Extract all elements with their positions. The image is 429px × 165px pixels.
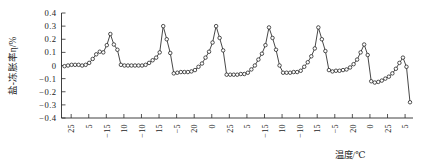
x-tick-label: 10 [120,124,129,133]
x-tick-label: 15 [155,124,164,133]
data-point-marker [348,66,352,70]
data-point-marker [123,64,127,68]
data-point-marker [94,53,98,57]
data-point-marker [341,68,345,72]
data-point-marker [250,68,254,72]
data-point-marker [253,64,257,68]
data-point-marker [366,53,370,57]
x-tick-label: 25 [226,124,235,133]
x-tick-label: 10 [278,124,287,133]
data-point-marker [77,63,81,67]
data-point-marker [151,59,155,63]
data-point-marker [302,65,306,69]
x-tick-label: −5 [173,124,182,133]
data-point-marker [338,69,342,73]
data-point-marker [401,56,405,60]
data-point-marker [112,43,116,47]
data-point-marker [80,64,84,68]
x-tick-label: 0 [366,124,375,128]
data-point-marker [352,62,356,66]
data-point-marker [137,64,141,68]
x-axis-title: 温度/℃ [335,149,366,160]
data-point-marker [193,68,197,72]
data-point-marker [232,73,236,77]
y-tick-label: 0 [52,61,57,71]
x-tick-label: −15 [103,124,112,138]
data-point-marker [306,60,310,64]
x-tick-label: 0 [208,124,217,128]
data-point-marker [197,65,201,69]
data-point-marker [271,36,275,40]
data-point-marker [144,63,148,67]
data-point-marker [165,38,169,42]
y-tick-label: −0.3 [39,100,56,110]
data-point-marker [369,80,373,84]
data-point-marker [169,51,173,55]
x-tick-label: 5 [243,124,252,128]
x-tick-marks [71,114,405,118]
data-point-marker [327,68,331,72]
y-tick-label: 0.2 [45,34,57,44]
data-point-marker [221,49,225,53]
data-point-marker [84,63,88,67]
data-point-marker [70,63,74,67]
data-point-marker [274,48,278,52]
data-point-marker [218,36,222,40]
data-point-marker [313,47,317,51]
data-point-marker [239,72,243,76]
x-tick-label: 20 [349,124,358,133]
data-point-marker [391,72,395,76]
x-tick-label: 20 [190,124,199,133]
data-point-marker [87,61,91,65]
data-point-marker [320,38,324,42]
data-point-marker [176,71,180,75]
data-point-marker [228,73,232,77]
data-point-marker [317,26,321,30]
data-point-marker [102,51,106,55]
data-point-marker [380,79,384,83]
data-point-marker [267,26,271,30]
data-point-marker [154,56,158,60]
data-point-marker [186,70,190,74]
data-point-marker [408,101,412,105]
data-point-marker [405,65,409,69]
x-tick-labels: 255−1510−1015−5200255−1510−1015−5200255 [67,124,410,138]
y-tick-label: 0.4 [45,8,57,18]
chart-canvas: 0.40.30.20.10−0.1−0.2−0.3−0.4 255−1510−1… [0,0,429,165]
data-point-marker [172,72,176,76]
data-point-marker [398,61,402,65]
data-point-marker [204,56,208,60]
data-point-marker [130,64,134,68]
data-point-marker [281,71,285,75]
x-tick-label: 15 [313,124,322,133]
x-tick-label: 5 [85,124,94,128]
data-point-marker [126,64,129,68]
data-point-marker [105,43,109,47]
data-point-marker [295,70,299,74]
data-point-marker [214,24,218,28]
y-tick-label: 0.3 [45,21,57,31]
data-point-marker [73,63,77,67]
data-point-marker [377,80,381,84]
data-point-marker [179,70,183,74]
x-tick-label: −10 [296,124,305,138]
data-point-marker [211,41,215,45]
data-series-markers [63,24,412,104]
data-point-marker [158,51,162,55]
data-point-marker [292,70,296,74]
y-tick-label: −0.1 [39,74,56,84]
x-tick-label: −15 [261,124,270,138]
data-point-marker [285,71,289,75]
data-point-marker [91,57,95,61]
data-point-marker [331,70,335,74]
data-point-marker [147,61,151,65]
data-point-marker [299,69,303,73]
data-point-marker [190,70,194,74]
data-point-marker [278,64,282,68]
x-tick-label: 25 [384,124,393,133]
data-point-marker [119,63,123,67]
data-point-marker [140,64,144,68]
y-tick-label: −0.2 [39,87,56,97]
data-point-marker [260,52,264,56]
data-point-marker [243,72,247,76]
